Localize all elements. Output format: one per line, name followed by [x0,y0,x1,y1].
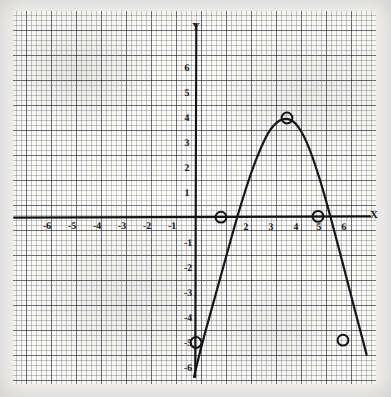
x-tick-label: 2 [243,222,248,232]
y-tick-label: -3 [184,288,193,298]
x-tick-label: -6 [43,221,52,231]
x-tick-label: 4 [293,222,298,232]
x-tick-label: 5 [316,222,321,232]
y-tick-label: -1 [184,238,193,248]
x-tick-label: -1 [168,221,177,231]
x-tick-label: 3 [268,222,273,232]
x-tick-label: -4 [93,221,102,231]
x-tick-label: -2 [143,221,152,231]
point-marker-6--5 [338,335,349,346]
parabola-curve [194,119,367,377]
y-tick-label: -2 [184,263,193,273]
y-axis [195,24,196,377]
y-tick-label: 3 [184,138,189,148]
y-tick-label: 1 [184,188,189,198]
x-tick-label: -5 [68,221,77,231]
y-tick-label: 4 [184,113,189,123]
x-tick-label: 6 [341,222,346,232]
y-tick-label: -4 [184,313,193,323]
y-axis-label: Y [192,21,200,32]
plot-canvas [0,0,391,397]
y-tick-label: 5 [184,88,189,98]
y-tick-label: -5 [184,338,193,348]
x-axis [14,216,370,217]
scanned-graph-image: X Y -6 -5 -4 -3 -2 -1 2 3 4 5 6 6 5 4 3 … [0,0,391,397]
y-tick-label: 6 [184,63,189,73]
x-axis-label: X [370,209,378,220]
y-tick-label: 2 [184,163,189,173]
x-tick-label: -3 [118,221,127,231]
y-tick-label: -6 [184,363,193,373]
